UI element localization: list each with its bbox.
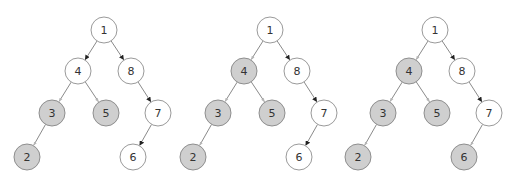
node-label: 8 xyxy=(294,65,301,78)
edge-1-to-4 xyxy=(251,41,263,60)
tree-node-4-visited: 4 xyxy=(231,58,257,84)
edge-1-to-8 xyxy=(442,41,455,60)
panel-2: 14835726 xyxy=(180,17,337,170)
edge-3-to-2 xyxy=(365,124,377,145)
tree-node-1: 1 xyxy=(422,17,448,43)
node-label: 1 xyxy=(432,24,439,37)
edge-8-to-7 xyxy=(304,82,317,102)
node-label: 7 xyxy=(155,107,162,120)
tree-node-5-visited: 5 xyxy=(259,100,285,126)
tree-node-6: 6 xyxy=(120,144,146,170)
node-label: 7 xyxy=(321,107,328,120)
tree-node-8: 8 xyxy=(449,58,475,84)
tree-diagram-canvas: 148357261483572614835726 xyxy=(0,0,512,184)
tree-node-6: 6 xyxy=(286,144,312,170)
panel-1: 14835726 xyxy=(14,17,171,170)
edge-4-to-5 xyxy=(251,82,264,102)
node-label: 2 xyxy=(190,151,197,164)
edge-4-to-3 xyxy=(59,82,71,101)
tree-node-7: 7 xyxy=(476,100,502,126)
node-label: 4 xyxy=(241,65,248,78)
node-label: 6 xyxy=(461,151,468,164)
tree-node-7: 7 xyxy=(311,100,337,126)
edge-7-to-6 xyxy=(306,124,318,145)
node-label: 1 xyxy=(101,24,108,37)
tree-node-7: 7 xyxy=(145,100,171,126)
node-label: 5 xyxy=(434,107,441,120)
tree-node-2-visited: 2 xyxy=(180,144,206,170)
edge-4-to-3 xyxy=(390,82,402,101)
edge-3-to-2 xyxy=(34,124,46,145)
tree-node-5-visited: 5 xyxy=(424,100,450,126)
node-label: 5 xyxy=(103,107,110,120)
tree-node-2-visited: 2 xyxy=(14,144,40,170)
edge-7-to-6 xyxy=(471,124,483,145)
node-label: 3 xyxy=(380,107,387,120)
edge-8-to-7 xyxy=(469,82,482,102)
tree-node-3-visited: 3 xyxy=(39,100,65,126)
tree-node-1: 1 xyxy=(257,17,283,43)
node-label: 4 xyxy=(75,65,82,78)
node-label: 5 xyxy=(269,107,276,120)
edge-4-to-3 xyxy=(225,82,237,101)
node-label: 8 xyxy=(459,65,466,78)
node-label: 3 xyxy=(49,107,56,120)
tree-node-4: 4 xyxy=(65,58,91,84)
node-label: 6 xyxy=(130,151,137,164)
node-label: 2 xyxy=(24,151,31,164)
node-label: 8 xyxy=(128,65,135,78)
tree-node-8: 8 xyxy=(118,58,144,84)
edge-1-to-8 xyxy=(277,41,290,60)
edge-3-to-2 xyxy=(200,124,212,145)
tree-node-1: 1 xyxy=(91,17,117,43)
edge-1-to-4 xyxy=(85,41,97,60)
tree-node-2-visited: 2 xyxy=(345,144,371,170)
edge-1-to-4 xyxy=(416,41,428,60)
tree-node-6-visited: 6 xyxy=(451,144,477,170)
node-label: 6 xyxy=(296,151,303,164)
node-label: 3 xyxy=(215,107,222,120)
tree-node-4-visited: 4 xyxy=(396,58,422,84)
node-label: 2 xyxy=(355,151,362,164)
edge-8-to-7 xyxy=(138,82,151,102)
tree-node-8: 8 xyxy=(284,58,310,84)
node-label: 4 xyxy=(406,65,413,78)
edge-1-to-8 xyxy=(111,41,124,60)
tree-node-3-visited: 3 xyxy=(370,100,396,126)
tree-node-3-visited: 3 xyxy=(205,100,231,126)
node-label: 7 xyxy=(486,107,493,120)
node-label: 1 xyxy=(267,24,274,37)
panel-3: 14835726 xyxy=(345,17,502,170)
edge-4-to-5 xyxy=(85,82,98,102)
edge-7-to-6 xyxy=(140,124,152,145)
edge-4-to-5 xyxy=(416,82,429,102)
tree-node-5-visited: 5 xyxy=(93,100,119,126)
